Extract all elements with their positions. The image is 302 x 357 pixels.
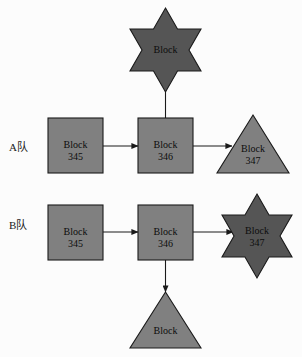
a-block-345-shape[interactable] [48,118,103,173]
b-block-346-shape[interactable] [138,205,193,260]
diagram-shapes-layer [0,0,302,357]
a-block-346-shape[interactable] [138,118,193,173]
row-label-b: B队 [9,216,27,232]
b-block-tri-shape[interactable] [130,292,201,348]
row-label-a: A队 [9,138,28,154]
b-block-347-shape[interactable] [222,194,292,278]
a-block-star-shape[interactable] [130,8,201,92]
diagram-canvas: A队 B队 Block 345 Block 346 Block 347 Bloc… [0,0,302,357]
a-block-347-shape[interactable] [217,115,289,173]
b-block-345-shape[interactable] [48,205,103,260]
